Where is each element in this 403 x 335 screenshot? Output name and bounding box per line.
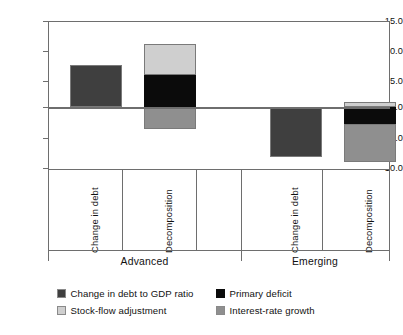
category-rack: Change in debt Decomposition Change in d… <box>48 170 390 250</box>
rack-foot-tick <box>389 250 390 261</box>
bar-emerging-decomposition <box>344 102 396 163</box>
segment-primary-deficit <box>344 107 396 124</box>
legend-item-change-in-debt-to-gdp-ratio: Change in debt to GDP ratio <box>57 288 194 299</box>
legend-item-primary-deficit: Primary deficit <box>216 288 292 299</box>
segment-primary-deficit <box>144 75 196 107</box>
chart-legend: Change in debt to GDP ratio Primary defi… <box>57 288 397 322</box>
rack-divider <box>389 170 390 250</box>
rack-divider <box>196 170 197 250</box>
segment-interest-rate-growth <box>344 124 396 163</box>
legend-label: Interest-rate growth <box>230 305 315 316</box>
category-label-advanced-decomposition: Decomposition <box>163 189 174 253</box>
segment-change-in-debt-to-gdp-ratio <box>270 107 322 157</box>
rack-divider <box>241 170 242 250</box>
legend-label: Stock-flow adjustment <box>71 305 167 316</box>
legend-label: Primary deficit <box>230 288 292 299</box>
bar-emerging-change-in-debt <box>270 107 322 157</box>
legend-swatch-stock-flow-adjustment <box>57 306 66 315</box>
rack-divider <box>122 170 123 250</box>
bar-advanced-change-in-debt <box>70 65 122 107</box>
legend-swatch-change-in-debt-to-gdp-ratio <box>57 289 66 298</box>
legend-item-stock-flow-adjustment: Stock-flow adjustment <box>57 305 166 316</box>
chart-container: 15.0 10.0 5.0 0.0 -5.0 -10.0 <box>0 0 403 335</box>
legend-label: Change in debt to GDP ratio <box>71 288 194 299</box>
group-label-emerging: Emerging <box>241 256 389 267</box>
category-label-advanced-change-in-debt: Change in debt <box>89 187 100 253</box>
rack-divider <box>322 170 323 250</box>
zero-baseline <box>48 107 390 109</box>
legend-item-interest-rate-growth: Interest-rate growth <box>216 305 315 316</box>
segment-stock-flow-adjustment <box>144 44 196 75</box>
legend-swatch-interest-rate-growth <box>216 306 225 315</box>
segment-change-in-debt-to-gdp-ratio <box>70 65 122 107</box>
category-label-emerging-decomposition: Decomposition <box>363 189 374 253</box>
legend-swatch-primary-deficit <box>216 289 225 298</box>
rack-baseline <box>48 250 390 251</box>
group-label-advanced: Advanced <box>48 256 241 267</box>
plot-area <box>48 21 390 170</box>
bar-advanced-decomposition <box>144 44 196 151</box>
category-label-emerging-change-in-debt: Change in debt <box>289 187 300 253</box>
segment-interest-rate-growth <box>144 107 196 129</box>
rack-divider <box>48 170 49 250</box>
